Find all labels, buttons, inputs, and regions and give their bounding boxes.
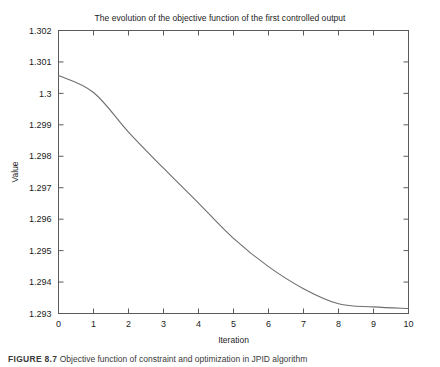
figure-caption: FIGURE 8.7 Objective function of constra… [8, 354, 432, 364]
figure-caption-text: Objective function of constraint and opt… [60, 354, 308, 364]
y-axis-title: Value [10, 161, 20, 182]
x-axis-tick-labels: 012345678910 [56, 319, 414, 329]
svg-text:1.302: 1.302 [29, 26, 52, 36]
y-axis-ticks [59, 31, 409, 314]
svg-text:1.301: 1.301 [29, 57, 52, 67]
y-axis-tick-labels: 1.2931.2941.2951.2961.2971.2981.2991.31.… [29, 26, 52, 319]
svg-text:1.295: 1.295 [29, 246, 52, 256]
x-axis-ticks [59, 31, 409, 314]
figure-container: The evolution of the objective function … [0, 0, 440, 367]
svg-text:3: 3 [161, 319, 166, 329]
svg-text:0: 0 [56, 319, 61, 329]
svg-text:1.3: 1.3 [39, 89, 52, 99]
svg-text:8: 8 [336, 319, 341, 329]
svg-text:2: 2 [126, 319, 131, 329]
line-chart-plot: 1.2931.2941.2951.2961.2971.2981.2991.31.… [0, 0, 440, 367]
axes-frame [59, 31, 409, 314]
svg-text:1.294: 1.294 [29, 277, 52, 287]
svg-text:1.296: 1.296 [29, 214, 52, 224]
data-series-line [59, 75, 409, 308]
svg-text:1: 1 [91, 319, 96, 329]
svg-text:10: 10 [403, 319, 413, 329]
svg-text:9: 9 [371, 319, 376, 329]
svg-text:1.299: 1.299 [29, 120, 52, 130]
svg-text:7: 7 [301, 319, 306, 329]
x-axis-title: Iteration [218, 335, 249, 345]
svg-text:4: 4 [196, 319, 201, 329]
svg-text:1.297: 1.297 [29, 183, 52, 193]
svg-text:5: 5 [231, 319, 236, 329]
svg-text:1.293: 1.293 [29, 309, 52, 319]
svg-text:1.298: 1.298 [29, 151, 52, 161]
figure-caption-label: FIGURE 8.7 [8, 354, 57, 364]
svg-text:6: 6 [266, 319, 271, 329]
